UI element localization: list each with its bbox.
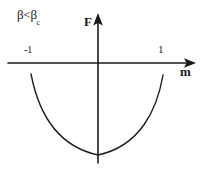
phase-condition-annotation: β<βc (17, 8, 40, 25)
x-tick-label-negative-one: -1 (24, 45, 32, 55)
phase-condition-base: β<β (17, 7, 37, 22)
x-axis-label: m (180, 65, 191, 78)
free-energy-figure: β<βc F m -1 1 (0, 0, 203, 183)
y-axis-label: F (84, 15, 92, 28)
free-energy-curve (31, 74, 163, 155)
plot-canvas (0, 0, 203, 183)
phase-condition-subscript: c (36, 18, 39, 27)
x-tick-label-positive-one: 1 (158, 44, 164, 55)
